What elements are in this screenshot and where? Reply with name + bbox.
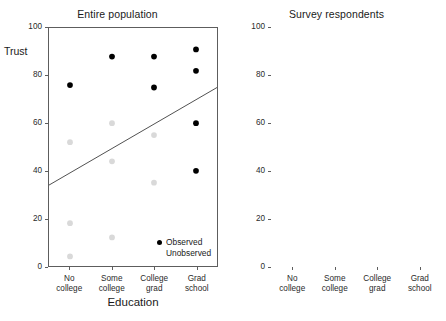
x-axis-tick-mark	[69, 267, 70, 270]
x-axis-tick-mark	[335, 267, 336, 270]
data-point-observed	[193, 47, 199, 53]
data-point-observed	[193, 120, 199, 126]
y-axis-tick-mark	[45, 267, 48, 268]
legend-item-unobserved: Unobserved	[157, 248, 211, 259]
x-axis-tick-label: Collegegrad	[354, 274, 400, 294]
x-axis-tick-label: Gradschool	[397, 274, 443, 294]
y-axis-tick-mark	[45, 75, 48, 76]
data-point-observed	[109, 54, 115, 60]
y-axis-tick-label: 20	[243, 214, 265, 223]
panel-title-right: Survey respondents	[225, 8, 446, 20]
data-point-unobserved	[151, 180, 157, 186]
observed-dot-icon	[157, 240, 162, 245]
data-point-observed	[193, 168, 199, 174]
y-axis-tick-mark	[268, 171, 271, 172]
y-axis-tick-mark	[268, 123, 271, 124]
y-axis-tick-mark	[268, 219, 271, 220]
x-axis-tick-label: Nocollege	[46, 274, 92, 294]
data-point-observed	[67, 82, 73, 88]
panel-entire-population: Entire population Trust Education Observ…	[0, 0, 223, 321]
figure-container: Entire population Trust Education Observ…	[0, 0, 446, 321]
legend-label-observed: Observed	[166, 237, 202, 248]
x-axis-label-left: Education	[48, 296, 218, 308]
legend-item-observed: Observed	[157, 237, 211, 248]
x-axis-tick-mark	[420, 267, 421, 270]
y-axis-tick-label: 60	[20, 118, 42, 127]
data-point-unobserved	[67, 220, 73, 226]
y-axis-tick-label: 0	[243, 262, 265, 271]
y-axis-tick-mark	[268, 27, 271, 28]
panel-title-left: Entire population	[6, 8, 229, 20]
y-axis-tick-mark	[45, 171, 48, 172]
y-axis-tick-label: 100	[243, 22, 265, 31]
data-point-unobserved	[109, 235, 115, 241]
x-axis-tick-mark	[377, 267, 378, 270]
y-axis-tick-mark	[268, 267, 271, 268]
data-point-observed	[193, 68, 199, 74]
scatter-plot-left	[49, 28, 217, 266]
legend: Observed Unobserved	[157, 237, 211, 259]
plot-area-left	[48, 27, 218, 267]
x-axis-tick-mark	[112, 267, 113, 270]
data-point-unobserved	[151, 132, 157, 138]
y-axis-tick-label: 80	[20, 70, 42, 79]
data-point-unobserved	[67, 254, 73, 260]
panel-survey-respondents: Survey respondents Education	[223, 0, 446, 321]
x-axis-tick-mark	[292, 267, 293, 270]
data-point-observed	[151, 54, 157, 60]
data-point-unobserved	[109, 158, 115, 164]
y-axis-tick-label: 80	[243, 70, 265, 79]
y-axis-tick-label: 100	[20, 22, 42, 31]
y-axis-tick-label: 0	[20, 262, 42, 271]
y-axis-label: Trust	[4, 45, 28, 57]
y-axis-tick-mark	[268, 75, 271, 76]
data-point-unobserved	[67, 139, 73, 145]
y-axis-tick-label: 40	[243, 166, 265, 175]
x-axis-tick-label: Somecollege	[89, 274, 135, 294]
legend-label-unobserved: Unobserved	[166, 248, 211, 259]
y-axis-tick-label: 60	[243, 118, 265, 127]
x-axis-tick-label: Gradschool	[174, 274, 220, 294]
data-point-unobserved	[109, 120, 115, 126]
x-axis-tick-label: Nocollege	[269, 274, 315, 294]
x-axis-tick-label: Somecollege	[312, 274, 358, 294]
data-point-observed	[151, 85, 157, 91]
y-axis-tick-label: 40	[20, 166, 42, 175]
y-axis-tick-mark	[45, 27, 48, 28]
x-axis-tick-mark	[154, 267, 155, 270]
y-axis-tick-label: 20	[20, 214, 42, 223]
y-axis-tick-mark	[45, 219, 48, 220]
unobserved-dot-icon	[157, 251, 162, 256]
regression-line	[49, 88, 217, 186]
x-axis-tick-mark	[197, 267, 198, 270]
x-axis-tick-label: Collegegrad	[131, 274, 177, 294]
y-axis-tick-mark	[45, 123, 48, 124]
